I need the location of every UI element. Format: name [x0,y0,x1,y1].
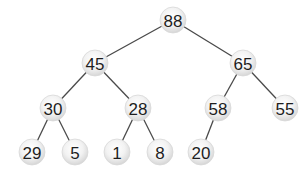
tree-node: 65 [230,50,256,76]
tree-node: 8 [147,139,173,165]
tree-node: 30 [40,95,66,121]
tree-node: 29 [19,139,45,165]
node-label: 65 [234,55,253,74]
node-label: 58 [209,100,228,119]
node-label: 8 [155,144,164,163]
node-label: 45 [86,55,105,74]
tree-node: 58 [205,95,231,121]
node-label: 30 [44,100,63,119]
tree-node: 5 [62,139,88,165]
node-label: 28 [129,100,148,119]
tree-node: 55 [272,95,298,121]
heap-tree-diagram: 884565302858552951820 [0,0,308,176]
node-label: 55 [276,100,295,119]
tree-node: 28 [125,95,151,121]
node-label: 20 [192,144,211,163]
nodes-layer: 884565302858552951820 [19,7,298,165]
tree-node: 1 [104,139,130,165]
edges-layer [32,20,285,152]
node-label: 5 [70,144,79,163]
node-label: 88 [164,12,183,31]
tree-node: 20 [188,139,214,165]
node-label: 1 [112,144,121,163]
tree-node: 45 [82,50,108,76]
tree-node: 88 [160,7,186,33]
node-label: 29 [23,144,42,163]
